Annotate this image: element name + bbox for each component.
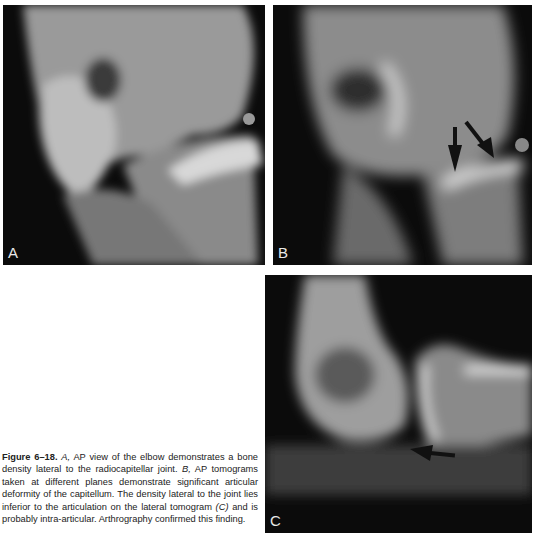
caption-ref-a: A, <box>61 452 70 462</box>
xray-image-b <box>273 5 532 265</box>
panel-label-b: B <box>278 244 288 261</box>
xray-image-c <box>265 275 532 533</box>
xray-image-a <box>3 5 265 265</box>
figure-number: Figure 6–18. <box>2 452 57 462</box>
panel-label-a: A <box>8 244 18 261</box>
caption-ref-b: B, <box>182 464 191 474</box>
xray-panel-c: C <box>265 275 532 533</box>
xray-panel-b: B <box>273 5 532 265</box>
panel-label-c: C <box>270 512 281 529</box>
xray-panel-a: A <box>3 5 265 265</box>
caption-ref-c: (C) <box>216 502 229 512</box>
figure-caption: Figure 6–18. A, AP view of the elbow dem… <box>2 451 258 525</box>
